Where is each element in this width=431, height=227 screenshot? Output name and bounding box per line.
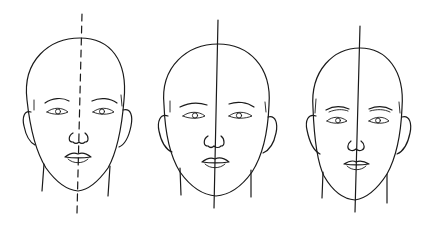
- face-3-left-eyebrow-inner: [329, 110, 348, 112]
- face-1: [23, 14, 131, 213]
- face-1-left-iris: [56, 109, 61, 114]
- face-1-center-axis: [77, 14, 82, 213]
- face-2-right-eyebrow: [229, 102, 254, 107]
- face-3-right-eyebrow-inner: [370, 110, 390, 112]
- face-symmetry-diagram: Face with dashed center line Face with s…: [0, 0, 431, 227]
- face-2-right-ear: [263, 117, 277, 153]
- face-3: [306, 26, 410, 212]
- face-1-right-temple: [121, 95, 122, 106]
- face-3-right-temple: [399, 102, 400, 113]
- face-2-nose: [204, 136, 224, 148]
- face-3-neck-left: [322, 172, 323, 198]
- face-3-right-iris: [376, 118, 381, 123]
- face-2-center-axis: [214, 20, 218, 208]
- face-3-center-axis: [355, 26, 360, 212]
- face-1-right-iris: [100, 109, 105, 114]
- face-1-upper-lip: [65, 153, 91, 158]
- face-2-left-eyebrow: [180, 103, 207, 107]
- face-1-neck-right: [108, 166, 110, 196]
- face-2: [158, 20, 276, 208]
- face-2-right-temple: [265, 102, 266, 112]
- face-3-left-temple: [315, 99, 316, 113]
- face-3-nose: [348, 141, 364, 151]
- face-1-right-eyebrow: [92, 99, 117, 103]
- face-1-neck-left: [42, 164, 44, 191]
- diagram-svg: [0, 0, 431, 227]
- face-2-right-iris: [236, 113, 241, 118]
- face-2-neck-left: [180, 168, 181, 195]
- face-1-left-eyebrow: [45, 99, 69, 103]
- face-3-left-iris: [336, 118, 341, 123]
- face-2-left-iris: [192, 113, 197, 118]
